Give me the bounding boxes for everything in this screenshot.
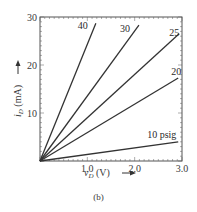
series-label: 40: [78, 20, 88, 31]
series-line-20: [40, 78, 178, 161]
chart: 1.02.03.0102030 4030252010 psig vD (V) i…: [0, 0, 197, 212]
series-line-40: [40, 23, 96, 161]
y-axis-arrow-icon: [16, 60, 21, 74]
series-line-10-psig: [40, 142, 178, 161]
figure-caption: (b): [0, 192, 197, 202]
series-label: 25: [169, 27, 179, 38]
y-tick-label: 10: [27, 108, 37, 119]
series-label: 20: [171, 66, 181, 77]
y-axis-label: iD (mA): [12, 85, 25, 117]
data-lines: [40, 23, 179, 161]
x-tick-label: 3.0: [176, 163, 189, 174]
y-tick-label: 20: [27, 60, 37, 71]
series-label: 30: [120, 23, 130, 34]
series-label: 10 psig: [147, 129, 176, 140]
y-tick-label: 30: [27, 12, 37, 23]
series-line-25: [40, 34, 179, 161]
x-axis-label: vD (V): [84, 167, 110, 180]
series-line-30: [40, 25, 139, 161]
tick-labels: 1.02.03.0102030: [27, 12, 188, 175]
